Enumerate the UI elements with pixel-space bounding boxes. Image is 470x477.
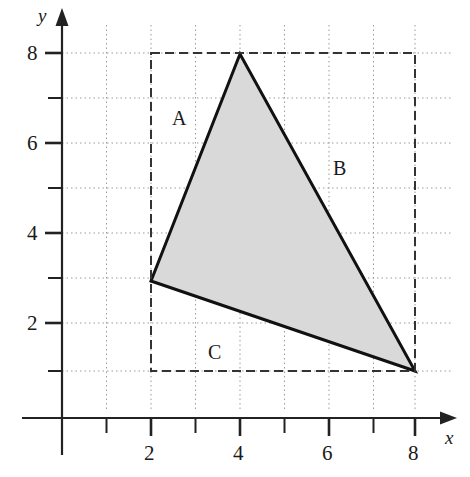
y-axis-arrow-icon [56, 8, 69, 26]
y-tick-label-6: 6 [27, 133, 38, 154]
plot-canvas [0, 0, 470, 477]
coordinate-plane-figure: 8 6 4 2 2 4 6 8 y x A B C [0, 0, 470, 477]
x-tick-label-6: 6 [322, 443, 333, 464]
y-axis-label: y [38, 6, 46, 25]
y-tick-label-2: 2 [27, 313, 38, 334]
x-tick-label-4: 4 [233, 443, 244, 464]
x-axis-label: x [445, 428, 453, 447]
x-tick-label-8: 8 [408, 443, 419, 464]
region-label-a: A [172, 108, 186, 128]
region-label-b: B [333, 158, 346, 178]
y-axis-ticks [45, 53, 62, 371]
shaded-triangle [151, 54, 415, 371]
region-label-c: C [208, 342, 221, 362]
x-axis-ticks [107, 418, 416, 436]
y-tick-label-8: 8 [27, 43, 38, 64]
x-axis-arrow-icon [440, 412, 457, 425]
x-tick-label-2: 2 [144, 443, 155, 464]
y-tick-label-4: 4 [27, 223, 38, 244]
